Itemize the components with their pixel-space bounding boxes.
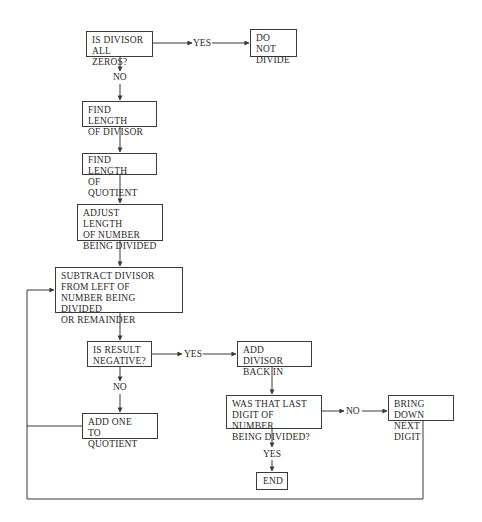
process-add-divisor-back: ADD DIVISOR BACK IN bbox=[237, 341, 312, 367]
edge-label-negative-yes: YES bbox=[183, 349, 203, 360]
edge-label-last-digit-yes: YES bbox=[262, 449, 282, 460]
connector-lines bbox=[0, 0, 482, 522]
edge-label-zero-yes: YES bbox=[192, 38, 212, 49]
terminal-end: END bbox=[256, 472, 288, 490]
edge-label-last-digit-no: NO bbox=[345, 406, 361, 417]
division-flowchart: IS DIVISOR ALL ZEROS? DO NOT DIVIDE FIND… bbox=[0, 0, 482, 522]
process-find-length-divisor: FIND LENGTH OF DIVISOR bbox=[82, 101, 157, 127]
decision-last-digit: WAS THAT LAST DIGIT OF NUMBER BEING DIVI… bbox=[226, 395, 322, 429]
decision-result-negative: IS RESULT NEGATIVE? bbox=[87, 341, 152, 367]
process-adjust-length: ADJUST LENGTH OF NUMBER BEING DIVIDED bbox=[77, 204, 163, 241]
process-add-one-quotient: ADD ONE TO QUOTIENT bbox=[82, 413, 158, 439]
process-subtract-divisor: SUBTRACT DIVISOR FROM LEFT OF NUMBER BEI… bbox=[55, 267, 183, 313]
edge-label-negative-no: NO bbox=[112, 382, 128, 393]
process-find-length-quotient: FIND LENGTH OF QUOTIENT bbox=[82, 153, 157, 175]
terminal-do-not-divide: DO NOT DIVIDE bbox=[250, 29, 297, 57]
decision-divisor-all-zeros: IS DIVISOR ALL ZEROS? bbox=[86, 31, 153, 57]
edge-label-zero-no: NO bbox=[112, 72, 128, 83]
process-bring-down-digit: BRING DOWN NEXT DIGIT bbox=[388, 395, 454, 421]
